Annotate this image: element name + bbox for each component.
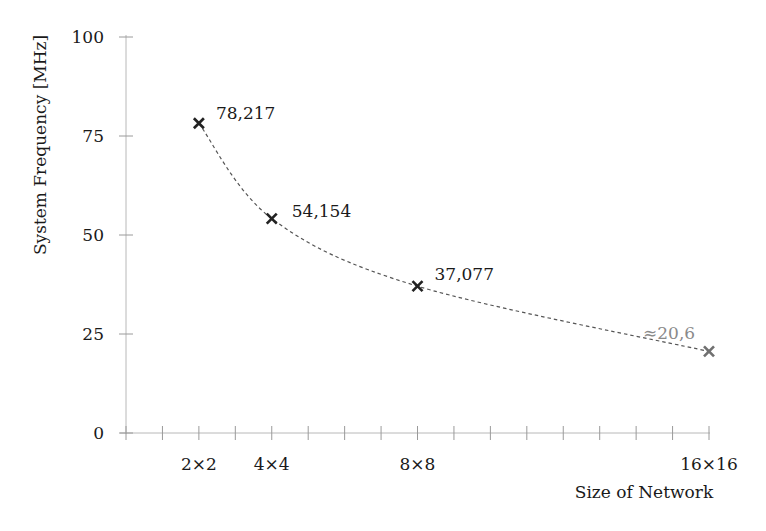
trend-curve [199, 123, 709, 351]
data-point: 54,154 [267, 201, 351, 224]
data-point: 78,217 [194, 103, 275, 128]
data-point: 37,077 [413, 264, 494, 291]
axes: 02550751002×24×48×816×16 [72, 27, 738, 474]
x-tick-label: 2×2 [181, 454, 217, 474]
data-label: 78,217 [216, 103, 275, 123]
x-tick-label: 16×16 [680, 454, 738, 474]
y-tick-label: 25 [82, 324, 104, 344]
data-point: ≈20,6 [643, 323, 714, 356]
plot-area: 78,21754,15437,077≈20,6 [194, 103, 714, 356]
data-label: ≈20,6 [643, 323, 695, 343]
data-label: 54,154 [292, 201, 351, 221]
chart-canvas: 02550751002×24×48×816×16 78,21754,15437,… [0, 0, 766, 531]
x-axis-label: Size of Network [575, 482, 714, 502]
x-tick-label: 4×4 [254, 454, 290, 474]
x-tick-label: 8×8 [400, 454, 436, 474]
y-tick-label: 50 [82, 225, 104, 245]
y-tick-label: 100 [72, 27, 104, 47]
data-label: 37,077 [435, 264, 494, 284]
y-tick-label: 0 [93, 423, 104, 443]
y-axis-label: System Frequency [MHz] [30, 35, 50, 255]
y-tick-label: 75 [82, 126, 104, 146]
